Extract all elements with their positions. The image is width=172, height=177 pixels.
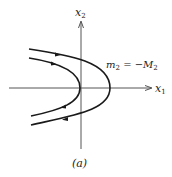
inner-bottom-direction-arrow bbox=[60, 105, 66, 109]
phase-plane-diagram: x2 x1 m2 = −M2 (a) bbox=[0, 0, 172, 177]
inner-trajectory bbox=[29, 58, 80, 116]
switching-condition-label: m2 = −M2 bbox=[106, 59, 158, 72]
x2-axis-label: x2 bbox=[75, 6, 86, 20]
figure-caption: (a) bbox=[72, 157, 87, 170]
x1-axis-label: x1 bbox=[155, 82, 166, 96]
